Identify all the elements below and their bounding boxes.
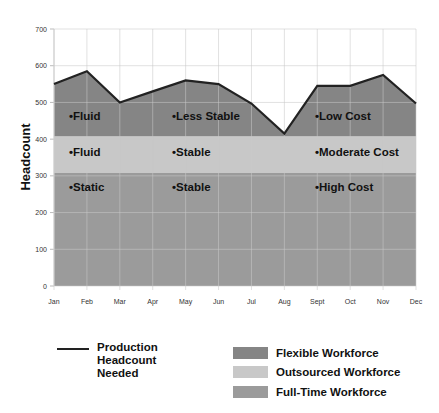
x-tick-label: Jul: [247, 298, 256, 305]
x-tick-label: Sept: [310, 298, 324, 306]
y-tick-label: 0: [43, 283, 47, 290]
band-annotation: •Fluid: [69, 146, 101, 158]
headcount-area-chart: 0100200300400500600700 JanFebMarAprMayJu…: [0, 0, 439, 330]
x-tick-label: Feb: [81, 298, 93, 305]
legend-line-label-3: Needed: [97, 367, 177, 380]
workforce-bands: [54, 71, 416, 286]
x-tick-label: Dec: [410, 298, 423, 305]
legend-line-label-2: Headcount: [97, 354, 177, 367]
y-tick-label: 300: [35, 172, 47, 179]
x-tick-label: Jun: [213, 298, 224, 305]
x-tick-label: Oct: [345, 298, 356, 305]
band-annotation: •High Cost: [315, 181, 373, 193]
y-tick-label: 700: [35, 26, 47, 33]
legend-line-item: Production Headcount Needed: [57, 341, 177, 380]
y-axis-label: Headcount: [18, 123, 33, 191]
legend-item-outsourced: Outsourced Workforce: [233, 363, 400, 383]
legend-item-flexible: Flexible Workforce: [233, 343, 400, 363]
x-tick-label: Jan: [48, 298, 59, 305]
y-tick-label: 100: [35, 246, 47, 253]
band-annotation: •Stable: [172, 146, 211, 158]
band-annotation: •Static: [69, 181, 105, 193]
y-tick-label: 500: [35, 99, 47, 106]
y-tick-label: 400: [35, 136, 47, 143]
band-annotation: •Less Stable: [172, 110, 240, 122]
x-tick-label: May: [179, 298, 193, 306]
legend-line-label-1: Production: [97, 341, 177, 354]
legend-label-outsourced: Outsourced Workforce: [276, 366, 400, 378]
outsourced-swatch-icon: [233, 366, 268, 378]
band-annotation: •Low Cost: [315, 110, 371, 122]
band-annotation: •Stable: [172, 181, 211, 193]
x-tick-label: Nov: [377, 298, 390, 305]
y-tick-label: 200: [35, 209, 47, 216]
x-tick-label: Aug: [278, 298, 291, 306]
legend-line-label: Production Headcount Needed: [97, 341, 177, 380]
line-swatch-icon: [57, 348, 89, 350]
band-annotation: •Fluid: [69, 110, 101, 122]
band-annotation: •Moderate Cost: [315, 146, 399, 158]
x-tick-label: Apr: [147, 298, 159, 306]
fulltime-swatch-icon: [233, 386, 268, 398]
flexible-swatch-icon: [233, 347, 268, 359]
y-axis-ticks: 0100200300400500600700: [35, 26, 47, 290]
legend-swatch-list: Flexible Workforce Outsourced Workforce …: [233, 343, 400, 402]
x-axis-ticks: JanFebMarAprMayJunJulAugSeptOctNovDec: [48, 298, 422, 306]
legend-label-fulltime: Full-Time Workforce: [276, 386, 387, 398]
y-tick-label: 600: [35, 62, 47, 69]
legend-label-flexible: Flexible Workforce: [276, 347, 379, 359]
x-tick-label: Mar: [114, 298, 127, 305]
legend-item-fulltime: Full-Time Workforce: [233, 382, 400, 402]
